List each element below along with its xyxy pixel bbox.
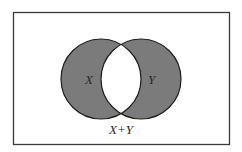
venn-diagram: X Y X+Y xyxy=(0,0,242,152)
union-caption: X+Y xyxy=(108,122,135,137)
set-x-label: X xyxy=(84,72,94,87)
